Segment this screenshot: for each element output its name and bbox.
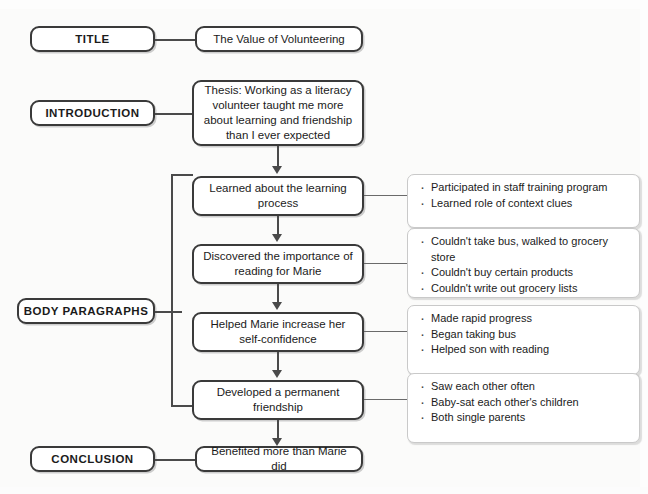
label-introduction-text: INTRODUCTION — [45, 107, 139, 119]
box-body-paragraph-3-text: Helped Marie increase her self-confidenc… — [200, 317, 356, 347]
arrow-body3-to-body4 — [272, 370, 282, 378]
box-body-paragraph-1: Learned about the learning process — [192, 176, 364, 216]
details-list-body-2: Couldn't take bus, walked to grocery sto… — [418, 234, 631, 296]
label-title-text: TITLE — [75, 33, 109, 45]
box-title-content-text: The Value of Volunteering — [213, 32, 345, 47]
connector-body3-to-details — [364, 331, 409, 332]
connector-thesis-down — [277, 146, 279, 168]
list-item: Couldn't take bus, walked to grocery sto… — [418, 234, 631, 265]
box-title-content: The Value of Volunteering — [195, 26, 363, 52]
connector-body4-to-details — [364, 399, 409, 400]
scan-artifact-top — [0, 0, 648, 9]
flowchart-canvas: TITLE The Value of Volunteering INTRODUC… — [0, 0, 648, 494]
label-conclusion-text: CONCLUSION — [51, 453, 133, 465]
box-conclusion-content-text: Benefited more than Marie did — [203, 444, 355, 474]
list-item: Participated in staff training program — [418, 180, 631, 196]
list-item: Both single parents — [418, 410, 631, 426]
list-item: Baby-sat each other's children — [418, 395, 631, 411]
bracket-body-top-stub — [171, 174, 193, 176]
details-box-body-3: Made rapid progress Began taking bus Hel… — [407, 305, 640, 375]
details-box-body-4: Saw each other often Baby-sat each other… — [407, 373, 640, 443]
label-introduction: INTRODUCTION — [30, 100, 155, 126]
details-list-body-4: Saw each other often Baby-sat each other… — [418, 379, 631, 426]
box-body-paragraph-2-text: Discovered the importance of reading for… — [200, 249, 356, 279]
list-item: Couldn't write out grocery lists — [418, 281, 631, 297]
connector-body2-down — [277, 284, 279, 304]
box-body-paragraph-4: Developed a permanent friendship — [192, 380, 364, 420]
list-item: Saw each other often — [418, 379, 631, 395]
box-body-paragraph-2: Discovered the importance of reading for… — [192, 244, 364, 284]
arrow-thesis-to-body1 — [272, 166, 282, 174]
connector-conclusion-to-content — [155, 459, 196, 461]
details-list-body-1: Participated in staff training program L… — [418, 180, 631, 211]
label-body-paragraphs-text: BODY PARAGRAPHS — [24, 305, 149, 317]
scan-artifact-bottom — [0, 487, 648, 494]
list-item: Began taking bus — [418, 327, 631, 343]
box-conclusion-content: Benefited more than Marie did — [195, 446, 363, 472]
scan-artifact-right — [640, 0, 648, 494]
connector-body1-down — [277, 216, 279, 236]
details-box-body-2: Couldn't take bus, walked to grocery sto… — [407, 228, 640, 298]
details-list-body-3: Made rapid progress Began taking bus Hel… — [418, 311, 631, 358]
bracket-body-vertical — [171, 174, 173, 406]
connector-body1-to-details — [364, 195, 409, 196]
label-conclusion: CONCLUSION — [30, 446, 155, 472]
list-item: Helped son with reading — [418, 342, 631, 358]
connector-body4-down — [277, 420, 279, 440]
arrow-body1-to-body2 — [272, 234, 282, 242]
list-item: Learned role of context clues — [418, 196, 631, 212]
box-body-paragraph-3: Helped Marie increase her self-confidenc… — [192, 312, 364, 352]
connector-title-to-content — [155, 39, 196, 41]
bracket-body-bottom-stub — [171, 405, 193, 407]
box-thesis: Thesis: Working as a literacy volunteer … — [192, 80, 364, 146]
connector-body2-to-details — [364, 263, 409, 264]
arrow-body2-to-body3 — [272, 302, 282, 310]
details-box-body-1: Participated in staff training program L… — [407, 174, 640, 228]
list-item: Made rapid progress — [418, 311, 631, 327]
box-body-paragraph-4-text: Developed a permanent friendship — [200, 385, 356, 415]
connector-body-label-to-bracket — [155, 311, 182, 313]
label-body-paragraphs: BODY PARAGRAPHS — [17, 298, 155, 324]
connector-introduction-to-thesis — [155, 113, 196, 115]
box-thesis-text: Thesis: Working as a literacy volunteer … — [200, 83, 356, 143]
connector-body3-down — [277, 352, 279, 372]
list-item: Couldn't buy certain products — [418, 265, 631, 281]
box-body-paragraph-1-text: Learned about the learning process — [200, 181, 356, 211]
label-title: TITLE — [30, 26, 155, 52]
